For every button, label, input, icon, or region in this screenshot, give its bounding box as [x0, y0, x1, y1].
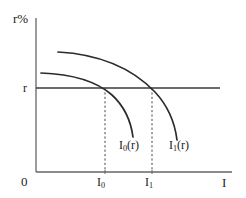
origin-label: 0 — [21, 175, 28, 188]
curve-label-i0: I0(r) — [119, 139, 139, 153]
investment-demand-curve-1 — [58, 52, 177, 140]
investment-demand-curve-0 — [41, 73, 133, 137]
investment-demand-chart: r% r 0 I0 I1 I I0(r) I1(r) — [0, 0, 246, 198]
x-tick-label-i1: I1 — [145, 176, 153, 190]
plot-canvas — [0, 0, 246, 198]
curve-label-i0-suffix: (r) — [127, 138, 139, 152]
interest-rate-level-label: r — [23, 82, 27, 94]
x-tick-label-i1-sub: 1 — [149, 181, 153, 190]
curve-label-i1: I1(r) — [169, 139, 189, 153]
x-tick-label-i0: I0 — [97, 176, 105, 190]
x-axis-label: I — [222, 176, 226, 189]
curve-label-i1-suffix: (r) — [177, 138, 189, 152]
x-tick-label-i0-sub: 0 — [101, 181, 105, 190]
y-axis-label: r% — [13, 12, 28, 25]
